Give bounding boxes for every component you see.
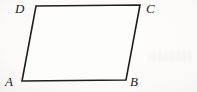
vertex-label-a: A [5, 75, 13, 88]
scanned-figure-region: D C A B [0, 0, 197, 92]
vertex-label-b: B [130, 75, 138, 88]
parallelogram-figure [0, 0, 197, 92]
page-bleed-artifact [148, 51, 192, 62]
vertex-label-d: D [15, 2, 24, 15]
parallelogram-outline [22, 5, 140, 81]
vertex-label-c: C [146, 2, 155, 15]
